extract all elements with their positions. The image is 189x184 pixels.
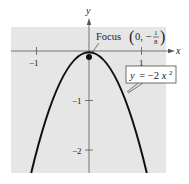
- plot-area: [11, 27, 166, 173]
- y-tick-label: −1: [72, 96, 82, 106]
- svg-text:Focus: Focus: [96, 31, 121, 42]
- focus-x-value: 0,: [135, 31, 143, 42]
- x-axis-arrow-icon: [168, 49, 175, 53]
- equation-rhs: = −2: [139, 70, 159, 81]
- equation-exponent: 2: [169, 69, 173, 77]
- focus-open-paren: (: [129, 28, 134, 46]
- svg-text:y = −2 x 2: y = −2 x 2: [129, 69, 173, 81]
- y-axis-arrow-icon: [87, 18, 91, 25]
- focus-word: Focus: [96, 31, 121, 42]
- y-axis-label: y: [85, 5, 91, 16]
- focus-minus: −: [146, 31, 152, 42]
- x-axis-label: x: [175, 45, 181, 56]
- focus-point: [86, 54, 92, 60]
- equation-lhs: y: [129, 70, 135, 81]
- focus-numerator: 1: [154, 29, 158, 37]
- x-tick-label: −1: [29, 58, 39, 68]
- parabola-chart: x −1 1 y −1 −2 Focus ( 0, − 1 8 ): [0, 0, 189, 184]
- focus-close-paren: ): [160, 28, 165, 46]
- focus-denominator: 8: [154, 38, 158, 46]
- y-tick-label: −2: [72, 146, 82, 156]
- equation-var: x: [161, 70, 167, 81]
